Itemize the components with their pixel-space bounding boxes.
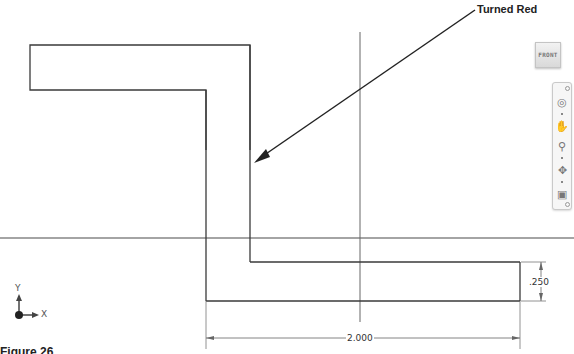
triad-y-arrow-icon — [16, 294, 22, 301]
orbit-icon[interactable]: ✥ — [555, 163, 569, 177]
sketch-canvas[interactable] — [0, 0, 574, 354]
dim-height-arrow-up-icon — [539, 262, 543, 270]
navbar-dropdown-dot[interactable] — [561, 181, 563, 183]
navbar-dropdown-dot[interactable] — [561, 157, 563, 159]
viewcube-front[interactable]: FRONT — [535, 42, 561, 68]
navigation-bar: ◎ ✋ ⚲ ✥ ▣ — [552, 82, 572, 210]
figure-caption: Figure 26 — [0, 345, 53, 354]
dim-height-arrow-down-icon — [539, 293, 543, 301]
navbar-resize-icon[interactable] — [565, 202, 570, 207]
zoom-icon[interactable]: ⚲ — [555, 139, 569, 153]
navbar-pin-icon[interactable] — [565, 86, 570, 91]
triad-origin-icon — [15, 311, 23, 319]
dim-width-arrow-left-icon — [206, 336, 214, 340]
triad-x-arrow-icon — [32, 312, 39, 318]
dimension-height-value[interactable]: .250 — [529, 277, 549, 287]
triad-y-label: Y — [15, 283, 21, 293]
triad-x-label: X — [41, 309, 47, 319]
callout-label: Turned Red — [477, 3, 537, 15]
steering-wheel-icon[interactable]: ◎ — [555, 95, 569, 109]
navbar-dropdown-dot[interactable] — [561, 113, 563, 115]
dim-width-arrow-right-icon — [512, 336, 520, 340]
callout-leader-line — [260, 10, 475, 158]
hand-icon[interactable]: ✋ — [555, 119, 569, 133]
dimension-width-value[interactable]: 2.000 — [346, 333, 374, 343]
upper-profile-outline[interactable] — [30, 45, 250, 150]
look-at-icon[interactable]: ▣ — [555, 187, 569, 201]
callout-arrowhead-icon — [254, 149, 270, 163]
